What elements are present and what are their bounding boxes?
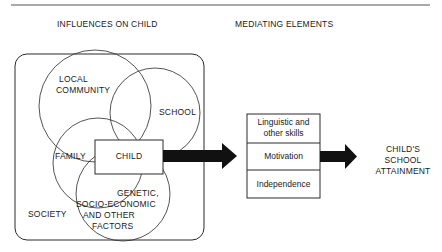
outcome-line-1: CHILD'S (368, 144, 438, 155)
header-mediating: MEDIATING ELEMENTS (235, 19, 333, 30)
mediating-linguistic-line-2: other skills (247, 128, 320, 139)
genetic-label-1: GENETIC, (117, 188, 159, 199)
outcome-line-2: SCHOOL (368, 155, 438, 166)
local-community-label-2: COMMUNITY (56, 85, 110, 96)
society-label: SOCIETY (28, 209, 67, 220)
arrow-influences-to-mediating (163, 143, 237, 169)
mediating-linguistic-line-1: Linguistic and (247, 117, 320, 128)
header-influences: INFLUENCES ON CHILD (57, 19, 158, 30)
mediating-independence: Independence (247, 179, 320, 190)
local-community-label-1: LOCAL (59, 74, 88, 85)
genetic-label-2: SOCIO-ECONOMIC (76, 199, 156, 210)
child-label: CHILD (95, 151, 163, 162)
arrow-mediating-to-outcome (320, 144, 357, 169)
genetic-label-3: AND OTHER (83, 210, 135, 221)
family-label: FAMILY (55, 151, 86, 162)
genetic-label-4: FACTORS (92, 221, 133, 232)
outcome-line-3: ATTAINMENT (368, 166, 438, 177)
school-label: SCHOOL (159, 107, 196, 118)
mediating-motivation: Motivation (247, 151, 320, 162)
